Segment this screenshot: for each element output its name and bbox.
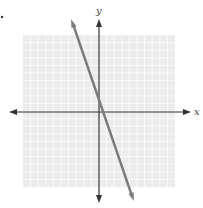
y-axis-up-arrow-icon [96,19,102,27]
x-axis-right-arrow-icon [183,109,191,115]
bullet-dot [1,16,3,18]
line-top-arrow-icon [71,19,77,28]
x-axis-label: x [194,106,200,117]
coordinate-plane: x y [0,0,203,208]
line-bottom-arrow-icon [129,192,135,201]
x-axis-left-arrow-icon [9,109,17,115]
y-axis-down-arrow-icon [96,195,102,203]
y-axis-label: y [95,5,102,16]
